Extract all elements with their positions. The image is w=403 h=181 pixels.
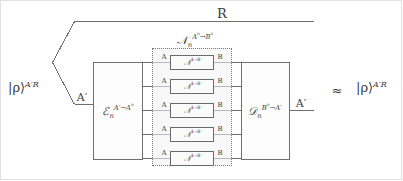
channel-op-label-4: 𝒩A→B <box>184 132 201 139</box>
output-state-superscript: A′R <box>373 80 387 89</box>
channel-op-label-1: 𝒩A→B <box>184 60 201 67</box>
branch-wire-upper <box>53 22 75 63</box>
input-state-ket: |ρ⟩ <box>8 80 25 95</box>
approx-symbol: ≈ <box>332 84 343 97</box>
decoder-superscript: Bn→A′ <box>262 104 282 112</box>
channel-group-superscript: An→Bn <box>192 33 213 41</box>
channel-input-label-4: A <box>161 126 166 133</box>
encoder-superscript: A′→An <box>114 104 134 112</box>
quantum-coding-diagram: |ρ⟩A′R R A′ ℰnA′→An 𝒩nAn→Bn A 𝒩A→B B A 𝒩… <box>0 0 403 181</box>
channel-group-label: 𝒩nAn→Bn <box>177 35 213 46</box>
encoder-label: ℰnA′→An <box>102 106 133 117</box>
channel-input-label-2: A <box>161 78 166 85</box>
channel-output-label-3: B <box>217 102 222 109</box>
decoder-subscript: n <box>257 112 261 120</box>
channel-op-label-3: 𝒩A→B <box>184 108 201 115</box>
input-state-label: |ρ⟩A′R <box>8 81 39 94</box>
encoder-input-label: A′ <box>77 92 87 103</box>
channel-output-label-4: B <box>217 126 222 133</box>
branch-wire-lower <box>53 63 75 105</box>
channel-group-subscript: n <box>188 41 192 49</box>
decoder-output-label: A′ <box>296 98 306 109</box>
channel-input-label-5: A <box>161 150 166 157</box>
decoder-symbol: 𝒟 <box>248 105 257 118</box>
channel-input-label-3: A <box>161 102 166 109</box>
channel-output-label-2: B <box>217 78 222 85</box>
channel-output-label-5: B <box>217 150 222 157</box>
channel-op-label-2: 𝒩A→B <box>184 84 201 91</box>
channel-input-label-1: A <box>161 54 166 61</box>
channel-op-label-5: 𝒩A→B <box>184 156 201 163</box>
encoder-symbol: ℰ <box>102 105 109 118</box>
reference-wire-label: R <box>217 7 227 20</box>
input-state-superscript: A′R <box>25 80 39 89</box>
output-state-ket: |ρ⟩ <box>356 80 373 95</box>
channel-output-label-1: B <box>217 54 222 61</box>
output-state-label: |ρ⟩A′R <box>356 81 387 94</box>
decoder-label: 𝒟nBn→A′ <box>248 106 281 117</box>
channel-group-symbol: 𝒩 <box>177 34 188 47</box>
encoder-subscript: n <box>109 112 113 120</box>
